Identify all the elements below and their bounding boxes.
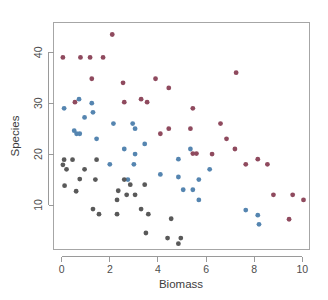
- data-point: [89, 101, 94, 106]
- data-point: [116, 188, 121, 193]
- data-point: [188, 147, 193, 152]
- data-point: [82, 167, 87, 172]
- data-point: [243, 162, 248, 167]
- data-point: [145, 100, 150, 105]
- data-point: [62, 157, 67, 162]
- data-point: [233, 147, 238, 152]
- data-point: [169, 216, 174, 221]
- data-point: [124, 192, 129, 197]
- data-point: [82, 115, 87, 120]
- data-point: [101, 55, 106, 60]
- data-point: [166, 126, 171, 131]
- data-point: [110, 32, 115, 37]
- y-tick-label: 10: [32, 199, 44, 211]
- data-point: [77, 97, 82, 102]
- data-point: [144, 231, 149, 236]
- data-point: [176, 175, 181, 180]
- data-point: [234, 70, 239, 75]
- data-point: [166, 86, 171, 91]
- data-point: [133, 126, 138, 131]
- x-tick-label: 8: [251, 263, 257, 275]
- data-point: [62, 106, 67, 111]
- data-point: [121, 80, 126, 85]
- data-point: [255, 213, 260, 218]
- data-point: [115, 198, 120, 203]
- data-point: [265, 162, 270, 167]
- data-point: [218, 121, 223, 126]
- x-tick-label: 10: [296, 263, 308, 275]
- data-point: [93, 177, 98, 182]
- data-point: [153, 76, 158, 81]
- data-point: [194, 151, 199, 156]
- data-point: [181, 187, 186, 192]
- data-point: [128, 182, 133, 187]
- data-point: [196, 198, 201, 203]
- x-tick-label: 6: [203, 263, 209, 275]
- data-point: [224, 136, 229, 141]
- data-point: [88, 55, 93, 60]
- data-point: [243, 208, 248, 213]
- scatter-plot-figure: 10203040 0246810 Biomass Species: [0, 0, 328, 300]
- x-tick-label: 0: [59, 263, 65, 275]
- data-point: [133, 152, 138, 157]
- y-tick-label: 20: [32, 148, 44, 160]
- x-tick-label: 4: [155, 263, 161, 275]
- data-point: [131, 162, 136, 167]
- data-point: [94, 136, 99, 141]
- data-point: [122, 147, 127, 152]
- y-axis-title: Species: [9, 115, 21, 156]
- data-point: [77, 131, 82, 136]
- y-tick-label: 40: [32, 46, 44, 58]
- data-point: [287, 217, 292, 222]
- data-point: [94, 157, 99, 162]
- data-point: [122, 177, 127, 182]
- data-point: [271, 192, 276, 197]
- data-point: [190, 187, 195, 192]
- data-point: [190, 106, 195, 111]
- data-point: [142, 182, 147, 187]
- data-point: [74, 189, 79, 194]
- data-point: [188, 126, 193, 131]
- data-point: [111, 121, 116, 126]
- data-point: [146, 212, 151, 217]
- data-point: [176, 157, 181, 162]
- data-point: [77, 177, 82, 182]
- y-tick-label: 30: [32, 97, 44, 109]
- data-point: [64, 167, 69, 172]
- data-point: [70, 157, 75, 162]
- data-point: [91, 110, 96, 115]
- data-point: [78, 55, 83, 60]
- data-point: [301, 198, 306, 203]
- data-point: [130, 121, 135, 126]
- plot-background: [0, 0, 328, 300]
- data-point: [290, 192, 295, 197]
- data-point: [61, 162, 66, 167]
- data-point: [196, 177, 201, 182]
- data-point: [142, 142, 147, 147]
- data-point: [176, 241, 181, 246]
- data-point: [165, 236, 170, 241]
- data-point: [255, 157, 260, 162]
- data-point: [139, 97, 144, 102]
- x-tick-label: 2: [107, 263, 113, 275]
- data-point: [207, 167, 212, 172]
- data-point: [158, 131, 163, 136]
- data-point: [62, 183, 67, 188]
- data-point: [178, 236, 183, 241]
- plot-canvas: 10203040 0246810 Biomass Species: [0, 0, 328, 300]
- data-point: [133, 192, 138, 197]
- data-point: [61, 55, 66, 60]
- data-point: [73, 100, 78, 105]
- data-point: [115, 212, 120, 217]
- x-axis-title: Biomass: [159, 278, 203, 290]
- data-point: [122, 100, 127, 105]
- data-point: [89, 76, 94, 81]
- data-point: [107, 162, 112, 167]
- data-point: [97, 212, 102, 217]
- data-point: [158, 172, 163, 177]
- data-point: [257, 222, 262, 227]
- data-point: [139, 207, 144, 212]
- data-point: [91, 207, 96, 212]
- data-point: [210, 152, 215, 157]
